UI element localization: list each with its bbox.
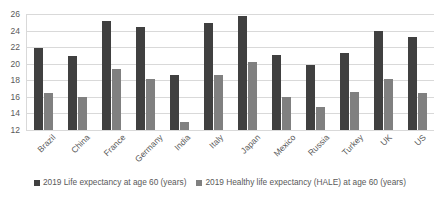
x-axis-label-cell: US bbox=[400, 131, 434, 173]
y-axis-tick-label: 16 bbox=[0, 93, 20, 102]
y-axis-tick-label: 20 bbox=[0, 60, 20, 69]
series-2-swatch bbox=[196, 180, 202, 186]
y-axis-tick-label: 14 bbox=[0, 109, 20, 118]
y-axis-tick-label: 26 bbox=[0, 10, 20, 19]
bar-series-1 bbox=[306, 65, 315, 130]
bar-groups bbox=[26, 14, 434, 130]
x-axis-tick-label: Germany bbox=[134, 133, 165, 164]
bar-series-2 bbox=[146, 79, 155, 130]
bar-group bbox=[400, 14, 434, 130]
bar-group bbox=[264, 14, 298, 130]
x-axis-label-cell: Brazil bbox=[26, 131, 60, 173]
x-axis-label-cell: India bbox=[162, 131, 196, 173]
y-axis-tick-label: 12 bbox=[0, 126, 20, 135]
x-axis-label-cell: Germany bbox=[128, 131, 162, 173]
x-axis-tick-label: Brazil bbox=[36, 133, 57, 154]
bar-series-2 bbox=[350, 92, 359, 130]
bar-group bbox=[26, 14, 60, 130]
bar-series-2 bbox=[214, 75, 223, 130]
bar-series-1 bbox=[374, 31, 383, 130]
x-axis-category-labels: BrazilChinaFranceGermanyIndiaItalyJapanM… bbox=[26, 131, 434, 173]
bar-group bbox=[196, 14, 230, 130]
bar-chart: 2624222018161412 BrazilChinaFranceGerman… bbox=[0, 0, 440, 200]
bar-series-1 bbox=[238, 16, 247, 130]
x-axis-tick-label: US bbox=[413, 133, 428, 148]
bar-series-1 bbox=[170, 75, 179, 130]
series-1-swatch bbox=[34, 180, 40, 186]
bar-group bbox=[94, 14, 128, 130]
x-axis-tick-label: UK bbox=[379, 133, 394, 148]
bar-series-1 bbox=[136, 27, 145, 130]
bar-series-1 bbox=[340, 53, 349, 130]
x-axis-label-cell: France bbox=[94, 131, 128, 173]
x-axis-label-cell: Japan bbox=[230, 131, 264, 173]
bar-group bbox=[60, 14, 94, 130]
x-axis-tick-label: China bbox=[70, 133, 92, 155]
bar-series-2 bbox=[112, 69, 121, 130]
y-axis-tick-label: 22 bbox=[0, 43, 20, 52]
bar-series-1 bbox=[68, 56, 77, 130]
bar-group bbox=[298, 14, 332, 130]
bar-series-1 bbox=[102, 21, 111, 130]
chart-legend: 2019 Life expectancy at age 60 (years)20… bbox=[0, 178, 440, 187]
x-axis-tick-label: India bbox=[173, 133, 192, 152]
x-axis-tick-label: Russia bbox=[307, 133, 332, 158]
bar-series-2 bbox=[78, 97, 87, 130]
bar-series-2 bbox=[180, 122, 189, 130]
y-axis-tick-label: 18 bbox=[0, 76, 20, 85]
x-axis-tick-label: Turkey bbox=[341, 133, 366, 158]
bar-series-2 bbox=[316, 107, 325, 130]
plot-area bbox=[26, 14, 434, 130]
x-axis-tick-label: Mexico bbox=[272, 133, 297, 158]
bar-series-1 bbox=[204, 23, 213, 130]
bar-group bbox=[366, 14, 400, 130]
bar-group bbox=[230, 14, 264, 130]
x-axis-tick-label: Japan bbox=[239, 133, 262, 156]
x-axis-label-cell: Italy bbox=[196, 131, 230, 173]
y-axis-tick-label: 24 bbox=[0, 27, 20, 36]
legend-item[interactable]: 2019 Healthy life expectancy (HALE) at a… bbox=[196, 178, 406, 187]
x-axis-label-cell: Turkey bbox=[332, 131, 366, 173]
legend-item-label: 2019 Life expectancy at age 60 (years) bbox=[43, 178, 186, 187]
bar-series-2 bbox=[418, 93, 427, 130]
bar-series-1 bbox=[272, 55, 281, 130]
bar-group bbox=[162, 14, 196, 130]
x-axis-label-cell: Russia bbox=[298, 131, 332, 173]
x-axis-tick-label: France bbox=[102, 133, 127, 158]
legend-item[interactable]: 2019 Life expectancy at age 60 (years) bbox=[34, 178, 186, 187]
legend-item-label: 2019 Healthy life expectancy (HALE) at a… bbox=[205, 178, 406, 187]
bar-series-1 bbox=[34, 48, 43, 130]
x-axis-tick-label: Italy bbox=[208, 133, 225, 150]
bar-series-1 bbox=[408, 37, 417, 130]
bar-series-2 bbox=[384, 79, 393, 130]
x-axis-label-cell: UK bbox=[366, 131, 400, 173]
bar-series-2 bbox=[44, 93, 53, 130]
bar-group bbox=[332, 14, 366, 130]
bar-series-2 bbox=[248, 62, 257, 130]
x-axis-label-cell: Mexico bbox=[264, 131, 298, 173]
bar-group bbox=[128, 14, 162, 130]
x-axis-label-cell: China bbox=[60, 131, 94, 173]
bar-series-2 bbox=[282, 97, 291, 130]
